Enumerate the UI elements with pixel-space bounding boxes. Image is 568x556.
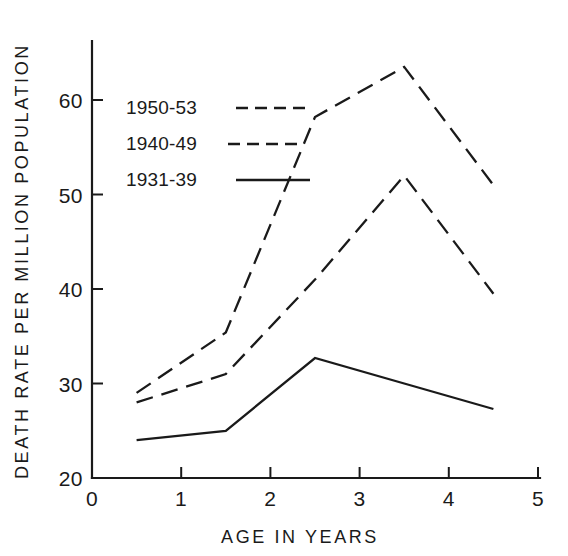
data-series-group [137, 67, 494, 440]
x-tick-label: 3 [354, 487, 366, 510]
y-tick-label: 30 [59, 373, 83, 396]
x-tick-label: 5 [532, 487, 544, 510]
y-axis-title: DEATH RATE PER MILLION POPULATION [12, 43, 32, 479]
y-tick-label: 60 [59, 89, 83, 112]
x-axis-title: AGE IN YEARS [221, 527, 379, 547]
y-tick-label: 50 [59, 184, 83, 207]
chart-legend: 1950-531940-491931-39 [126, 97, 310, 190]
x-tick-label: 1 [175, 487, 187, 510]
series-line-1931-39 [137, 358, 494, 440]
chart-container: DEATH RATE PER MILLION POPULATION AGE IN… [0, 0, 568, 556]
x-axis-ticks: 012345 [86, 467, 544, 510]
x-tick-label: 2 [264, 487, 276, 510]
x-tick-label: 0 [86, 487, 98, 510]
legend-label-1940-49: 1940-49 [126, 133, 197, 154]
legend-label-1931-39: 1931-39 [126, 169, 197, 190]
y-axis-ticks: 2030405060 [59, 89, 103, 490]
x-tick-label: 4 [443, 487, 455, 510]
y-tick-label: 40 [59, 278, 83, 301]
y-tick-label: 20 [59, 467, 83, 490]
series-line-1940-49 [137, 176, 494, 403]
line-chart-figure: DEATH RATE PER MILLION POPULATION AGE IN… [0, 0, 568, 556]
legend-label-1950-53: 1950-53 [126, 97, 197, 118]
